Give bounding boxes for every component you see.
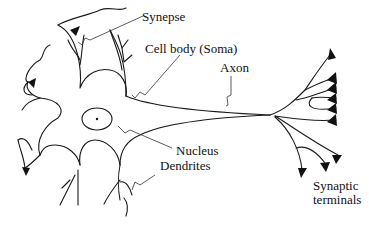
label-cell-body: Cell body (Soma) <box>145 41 237 56</box>
dendrite-synapse-icon <box>28 78 36 88</box>
terminal-bouton-icon <box>327 93 337 104</box>
nucleus <box>82 108 112 130</box>
terminal-bouton-icon <box>298 168 307 178</box>
terminal-bouton-icon <box>328 48 336 60</box>
terminal-bouton-icon <box>327 72 337 84</box>
label-axon: Axon <box>220 60 249 75</box>
dendrite-synapse-icon <box>22 167 30 176</box>
label-nucleus: Nucleus <box>176 143 219 158</box>
axon-terminals <box>270 48 342 178</box>
label-synaptic-terminals-2: terminals <box>313 192 361 207</box>
dendrite-synapse-icon <box>70 26 80 36</box>
label-synapse: Synepse <box>142 9 186 24</box>
neuron-diagram: Synepse Cell body (Soma) Axon Nucleus De… <box>0 0 369 227</box>
terminal-bouton-icon <box>327 82 337 94</box>
label-synaptic-terminals-1: Synaptic <box>313 178 359 193</box>
terminal-bouton-icon <box>320 162 330 172</box>
terminal-bouton-icon <box>332 155 342 164</box>
label-dendrites: Dendrites <box>160 158 211 173</box>
